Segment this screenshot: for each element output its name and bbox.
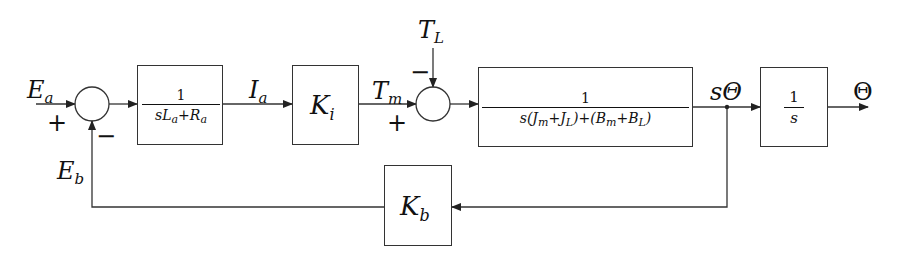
torque-gain-label: Ki — [310, 92, 335, 123]
output-angle-label: Θ — [853, 80, 873, 104]
sum1-minus-sign: − — [96, 124, 116, 148]
load-torque-label: TL — [418, 18, 444, 46]
electrical-transfer-function: 1 sLa+Ra — [142, 88, 220, 125]
current-label: Ia — [249, 78, 267, 106]
velocity-label: sΘ — [710, 80, 742, 104]
sum1-plus-sign: + — [47, 111, 67, 135]
block-diagram: 1 sLa+Ra Ki 1 s(Jm+JL)+(Bm+BL) 1 s Kb Ea… — [0, 0, 901, 265]
sum2-plus-sign: + — [387, 111, 407, 135]
sum2-minus-sign: − — [410, 60, 430, 84]
motor-torque-label: Tm — [372, 79, 402, 107]
mechanical-transfer-function: 1 s(Jm+JL)+(Bm+BL) — [482, 91, 689, 128]
back-emf-label: Eb — [57, 159, 84, 187]
summing-junction-2 — [416, 87, 450, 121]
summing-junction-1 — [75, 87, 109, 121]
back-emf-gain-label: Kb — [400, 193, 430, 224]
input-voltage-label: Ea — [27, 78, 53, 106]
integrator-transfer-function: 1 s — [784, 90, 804, 126]
